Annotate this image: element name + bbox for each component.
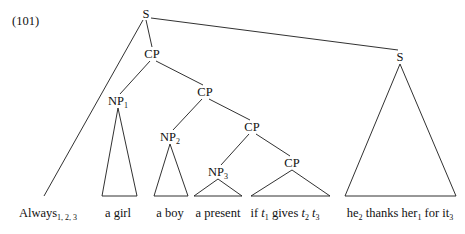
- node-label: CP: [197, 85, 212, 99]
- terminal-subscript: 2: [305, 213, 309, 222]
- branch-cp3-to-cp4: [256, 134, 290, 156]
- node-label: NP: [208, 165, 224, 179]
- triangle-right-s: [345, 64, 456, 196]
- terminal-text-part: if: [251, 206, 262, 220]
- terminal-text: Always: [19, 206, 57, 220]
- branch-root-s-to-cp-1: [146, 20, 152, 47]
- triangle-cp4: [251, 170, 330, 196]
- node-label: CP: [244, 120, 259, 134]
- terminal-subscript: 1: [417, 213, 421, 222]
- node-subscript: 1: [124, 100, 128, 109]
- branch-root-s-to-right-s: [151, 18, 398, 50]
- terminal-a-boy: a boy: [156, 207, 183, 220]
- triangle-np3: [194, 179, 242, 196]
- node-np-2: NP2: [160, 131, 180, 144]
- branch-cp2-to-np2: [173, 99, 202, 130]
- terminal-subscript: 2: [359, 213, 363, 222]
- node-label: CP: [284, 156, 299, 170]
- branch-cp2-to-cp3: [209, 99, 250, 120]
- terminal-text-part: he: [347, 206, 359, 220]
- terminal-text-part: gives: [269, 206, 302, 220]
- node-cp-2: CP: [197, 86, 212, 99]
- terminal-subscript: 3: [315, 213, 319, 222]
- node-label: NP: [160, 130, 176, 144]
- node-label: S: [143, 7, 150, 21]
- terminal-text: a girl: [105, 206, 131, 220]
- node-np-3: NP3: [208, 166, 228, 179]
- branch-cp3-to-np3: [221, 134, 249, 165]
- terminal-main-clause: he2 thanks her1 for it3: [347, 207, 453, 220]
- tree-lines: [0, 0, 465, 234]
- node-subscript: 3: [224, 171, 228, 180]
- terminal-text: a boy: [156, 206, 183, 220]
- node-cp-4: CP: [284, 157, 299, 170]
- node-cp-3: CP: [244, 121, 259, 134]
- terminal-always: Always1, 2, 3: [19, 207, 77, 220]
- terminal-a-present: a present: [196, 207, 241, 220]
- terminal-subscript: 1, 2, 3: [57, 213, 77, 222]
- node-label: CP: [144, 47, 159, 61]
- triangle-np1: [102, 108, 137, 196]
- triangle-group: [102, 64, 456, 196]
- branch-root-s-to-always: [44, 20, 143, 196]
- terminal-text: a present: [196, 206, 241, 220]
- terminal-subscript: 3: [449, 213, 453, 222]
- node-subscript: 2: [176, 136, 180, 145]
- node-label: NP: [108, 94, 124, 108]
- branch-cp1-to-np1: [120, 61, 150, 94]
- triangle-np2: [154, 144, 188, 196]
- syntax-tree-figure: (101) SCPCPCPCPNP1NP2NP3S Always1, 2, 3a…: [0, 0, 465, 234]
- node-root-s: S: [143, 8, 150, 21]
- node-right-s: S: [397, 51, 404, 64]
- terminal-a-girl: a girl: [105, 207, 131, 220]
- terminal-if-clause: if t1 gives t2 t3: [251, 207, 320, 220]
- terminal-text-part: thanks her: [363, 206, 418, 220]
- terminal-subscript: 1: [265, 213, 269, 222]
- node-np-1: NP1: [108, 95, 128, 108]
- node-cp-1: CP: [144, 48, 159, 61]
- branch-cp1-to-cp2: [156, 61, 203, 85]
- terminal-text-part: for it: [421, 206, 449, 220]
- node-label: S: [397, 50, 404, 64]
